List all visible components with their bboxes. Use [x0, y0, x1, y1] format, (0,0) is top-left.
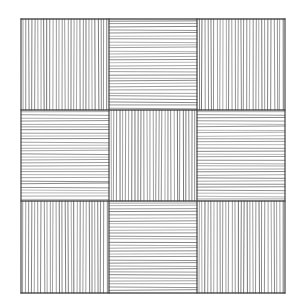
hatch-cell-vertical: [199, 201, 283, 293]
hatched-checkerboard-drawing: [0, 0, 303, 308]
hatch-cell-vertical: [199, 19, 283, 110]
hatch-cell-vertical: [111, 110, 195, 201]
hatch-cell-vertical: [23, 201, 108, 293]
hatch-cell-horizontal: [197, 112, 285, 199]
hatch-cell-horizontal: [109, 203, 197, 290]
hatch-cell-vertical: [23, 19, 107, 110]
hatch-cell-horizontal: [109, 21, 197, 109]
hatch-cell-horizontal: [21, 112, 109, 200]
